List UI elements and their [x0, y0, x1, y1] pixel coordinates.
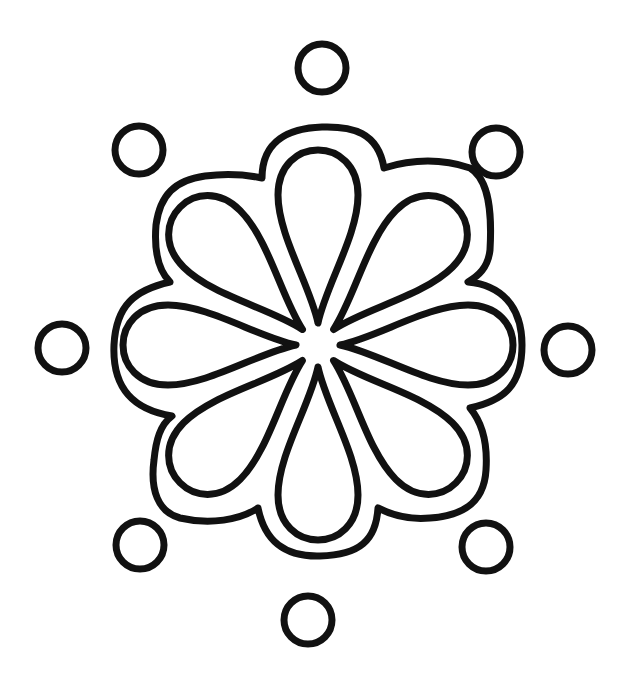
flower-svg	[0, 0, 630, 688]
flower-artwork	[0, 0, 630, 688]
petal-bottom	[278, 367, 358, 540]
dot-bottom-left	[116, 521, 164, 569]
dot-bottom	[284, 596, 332, 644]
dot-bottom-right	[462, 523, 510, 571]
dot-left	[38, 324, 86, 372]
petal-right	[340, 305, 513, 385]
dot-top-right	[472, 128, 520, 176]
petal-bottom-left	[152, 332, 331, 511]
petal-bottom-right	[305, 332, 484, 511]
scalloped-outline	[114, 127, 522, 556]
dot-right	[544, 326, 592, 374]
dot-top-left	[115, 126, 163, 174]
petal-top-left	[152, 179, 331, 358]
dot-top	[298, 44, 346, 92]
petal-left	[123, 305, 296, 385]
petal-top-right	[305, 179, 484, 358]
petal-top	[278, 150, 358, 323]
